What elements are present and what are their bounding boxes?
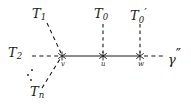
label-T2-base: T	[8, 45, 17, 60]
figure-canvas: T1 T2 Tn T0 T0′ γ″ v u w	[0, 0, 191, 107]
label-Tn-sub: n	[39, 90, 45, 100]
label-gamma: γ″	[168, 47, 181, 67]
label-T0-base: T	[94, 6, 103, 21]
label-Tn-base: T	[30, 84, 39, 99]
label-T0-prime-base: T	[130, 8, 139, 23]
vertex-label-v: v	[61, 61, 65, 68]
edge-t1-v	[47, 23, 61, 53]
label-gamma-base: γ	[168, 52, 176, 67]
label-gamma-prime: ″	[176, 46, 181, 62]
ellipsis-dots	[27, 69, 33, 81]
vertex-label-w: w	[138, 61, 144, 68]
label-Tn: Tn	[30, 85, 44, 100]
label-T0-prime-mark: ′	[144, 5, 147, 19]
label-T1-base: T	[32, 6, 41, 21]
edge-tn-v	[42, 59, 60, 88]
label-T2: T2	[8, 46, 22, 61]
label-T0-prime: T0′	[130, 7, 147, 24]
label-T1: T1	[32, 7, 46, 22]
label-T1-sub: 1	[41, 12, 46, 22]
label-T0: T0	[94, 7, 108, 22]
vertex-label-u: u	[101, 61, 106, 68]
label-T0-sub: 0	[103, 12, 108, 22]
label-T2-sub: 2	[17, 51, 22, 61]
